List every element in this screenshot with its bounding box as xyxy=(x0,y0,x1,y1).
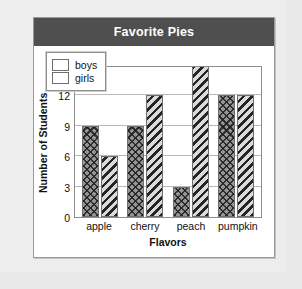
y-axis-tick: 3 xyxy=(50,182,70,194)
bar-peach-boys xyxy=(173,187,190,217)
bar-cherry-girls xyxy=(146,95,163,217)
y-axis-tick: 12 xyxy=(50,90,70,102)
bar-pumpkin-boys xyxy=(218,95,235,217)
bar-cherry-boys xyxy=(127,126,144,217)
bar-group xyxy=(127,67,163,217)
x-axis-tick-pumpkin: pumpkin xyxy=(218,220,256,232)
bar-pumpkin-girls xyxy=(237,95,254,217)
legend-swatch-boys xyxy=(52,59,69,71)
legend-swatch-girls xyxy=(52,72,69,84)
bar-peach-girls xyxy=(192,66,209,217)
y-axis-tick: 6 xyxy=(50,151,70,163)
x-axis-label: Flavors xyxy=(74,236,262,248)
x-axis-tick-cherry: cherry xyxy=(126,220,164,232)
chart-figure: Number of Students 03691215 boysgirls ap… xyxy=(34,46,274,257)
chart-legend: boysgirls xyxy=(46,52,106,91)
bar-apple-girls xyxy=(101,156,118,217)
chart-title: Favorite Pies xyxy=(114,25,194,39)
x-axis-tick-apple: apple xyxy=(80,220,118,232)
x-axis-tick-peach: peach xyxy=(172,220,210,232)
y-axis-tick: 0 xyxy=(50,212,70,224)
legend-item-girls: girls xyxy=(52,72,97,84)
chart-card: Favorite Pies Number of Students 0369121… xyxy=(33,17,275,258)
x-axis-tick-labels: applecherrypeachpumpkin xyxy=(74,220,262,232)
y-axis-tick: 9 xyxy=(50,121,70,133)
chart-card-body: Number of Students 03691215 boysgirls ap… xyxy=(34,46,274,257)
bar-group xyxy=(173,67,209,217)
legend-item-boys: boys xyxy=(52,59,97,71)
chart-card-header: Favorite Pies xyxy=(34,18,274,46)
bar-group xyxy=(218,67,254,217)
screenshot-root: Favorite Pies Number of Students 0369121… xyxy=(0,0,302,289)
legend-label-girls: girls xyxy=(75,72,94,84)
legend-label-boys: boys xyxy=(75,59,97,71)
bar-apple-boys xyxy=(82,126,99,217)
